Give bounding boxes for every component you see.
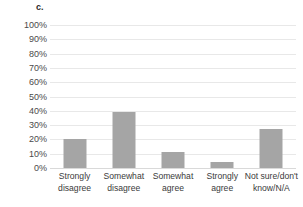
y-axis-tick-label: 30% bbox=[0, 121, 47, 130]
y-axis-tick-label: 60% bbox=[0, 78, 47, 87]
y-axis-tick-label: 80% bbox=[0, 50, 47, 59]
y-axis-tick-label: 100% bbox=[0, 21, 47, 30]
bar bbox=[112, 112, 135, 168]
bar bbox=[161, 152, 184, 168]
bar-slot bbox=[198, 25, 247, 168]
bar bbox=[211, 162, 234, 168]
y-axis-tick-label: 40% bbox=[0, 107, 47, 116]
y-axis-tick-label: 90% bbox=[0, 35, 47, 44]
x-axis-label-line: Not sure/don't bbox=[241, 171, 302, 183]
x-axis-category-labels: StronglydisagreeSomewhatdisagreeSomewhat… bbox=[50, 171, 300, 205]
panel-letter-label: c. bbox=[36, 2, 44, 13]
y-axis-tick-label: 10% bbox=[0, 150, 47, 159]
x-axis-label-line: know/N/A bbox=[241, 183, 302, 195]
bar-series bbox=[50, 25, 296, 168]
gridline-0 bbox=[50, 168, 296, 169]
figure-panel-c: c. 100%90%80%70%60%50%40%30%20%10%0% Str… bbox=[0, 0, 303, 207]
x-axis-label: Not sure/don'tknow/N/A bbox=[241, 171, 302, 194]
bar bbox=[260, 129, 283, 168]
bar-slot bbox=[247, 25, 296, 168]
y-axis-tick-label: 0% bbox=[0, 164, 47, 173]
y-axis-tick-label: 70% bbox=[0, 64, 47, 73]
bar-slot bbox=[50, 25, 99, 168]
y-axis-tick-label: 50% bbox=[0, 93, 47, 102]
bar bbox=[63, 139, 86, 168]
y-axis-tick-label: 20% bbox=[0, 135, 47, 144]
bar-slot bbox=[148, 25, 197, 168]
bar-slot bbox=[99, 25, 148, 168]
